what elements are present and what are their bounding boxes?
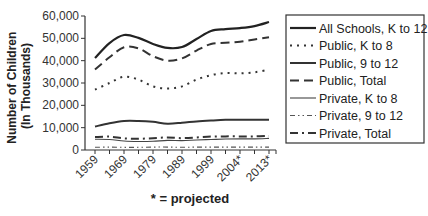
legend-label: Private, 9 to 12 <box>319 109 403 123</box>
x-tick-label: 1969 <box>101 152 130 181</box>
series-line <box>95 22 269 58</box>
footnote-projected: * = projected <box>151 191 229 206</box>
y-tick-label: 60,000 <box>42 9 79 23</box>
legend-label: All Schools, K to 12 <box>319 22 427 36</box>
y-axis: 010,00020,00030,00040,00050,00060,000 <box>42 9 85 157</box>
y-axis-title: Number of Children (In Thousands) <box>5 28 33 143</box>
legend-label: Private, Total <box>319 127 391 141</box>
series-line <box>95 70 269 90</box>
legend: All Schools, K to 12Public, K to 8Public… <box>286 15 427 143</box>
y-tick-label: 40,000 <box>42 54 79 68</box>
legend-label: Private, K to 8 <box>319 92 398 106</box>
x-tick-label: 2004* <box>214 152 246 184</box>
legend-label: Public, 9 to 12 <box>319 57 398 71</box>
y-tick-label: 20,000 <box>42 98 79 112</box>
y-tick-label: 10,000 <box>42 121 79 135</box>
x-tick-label: 1989 <box>159 152 188 181</box>
x-tick-label: 2013* <box>243 152 275 184</box>
y-tick-label: 0 <box>72 143 79 157</box>
series-line <box>95 120 269 127</box>
line-chart: 010,00020,00030,00040,00050,00060,000 19… <box>0 0 428 216</box>
y-tick-label: 30,000 <box>42 76 79 90</box>
x-axis: 195919691979198919992004*2013* <box>72 150 276 184</box>
y-tick-label: 50,000 <box>42 31 79 45</box>
plot-area <box>95 22 269 147</box>
series-line <box>95 37 269 69</box>
x-tick-label: 1999 <box>188 152 217 181</box>
series-line <box>95 138 269 141</box>
legend-label: Public, K to 8 <box>319 39 393 53</box>
x-tick-label: 1979 <box>130 152 159 181</box>
legend-label: Public, Total <box>319 74 386 88</box>
